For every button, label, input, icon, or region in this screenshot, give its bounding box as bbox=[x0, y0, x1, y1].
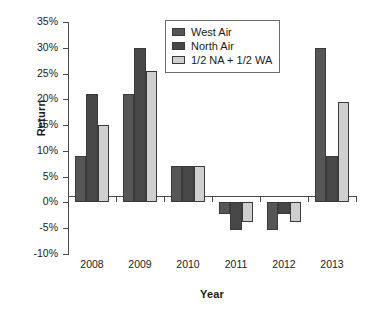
y-tick-mark bbox=[63, 202, 68, 203]
x-tick-mark bbox=[164, 197, 165, 202]
y-tick-mark bbox=[63, 151, 68, 152]
bar bbox=[290, 202, 302, 222]
y-tick-mark bbox=[63, 22, 68, 23]
x-tick-mark bbox=[116, 197, 117, 202]
x-tick-label: 2010 bbox=[164, 258, 212, 270]
legend-swatch bbox=[172, 28, 185, 36]
y-tick-label: 10% bbox=[37, 144, 58, 156]
y-tick-label: 15% bbox=[37, 118, 58, 130]
y-tick-mark bbox=[63, 48, 68, 49]
bar bbox=[194, 166, 206, 202]
legend-label: West Air bbox=[191, 25, 232, 39]
x-tick-mark bbox=[260, 197, 261, 202]
x-tick-label: 2009 bbox=[116, 258, 164, 270]
y-tick-mark bbox=[63, 254, 68, 255]
legend-item: West Air bbox=[172, 25, 272, 39]
y-tick-mark bbox=[63, 177, 68, 178]
bar bbox=[86, 94, 98, 202]
bar bbox=[230, 202, 242, 229]
bar bbox=[326, 156, 338, 202]
bar bbox=[123, 94, 135, 202]
chart-legend: West AirNorth Air1/2 NA + 1/2 WA bbox=[165, 20, 280, 73]
y-tick-label: -10% bbox=[33, 247, 58, 259]
bar bbox=[171, 166, 183, 202]
x-tick-label: 2012 bbox=[260, 258, 308, 270]
bar bbox=[134, 48, 146, 203]
legend-swatch bbox=[172, 56, 185, 64]
bar-chart: Return Year 35%30%25%20%15%10%5%0%-5%-10… bbox=[0, 0, 378, 318]
bar bbox=[146, 71, 158, 202]
x-tick-mark bbox=[356, 197, 357, 202]
x-tick-mark bbox=[68, 197, 69, 202]
x-tick-mark bbox=[308, 197, 309, 202]
bar bbox=[182, 166, 194, 202]
x-tick-label: 2013 bbox=[308, 258, 356, 270]
x-axis-title: Year bbox=[68, 288, 356, 300]
y-tick-mark bbox=[63, 74, 68, 75]
bar bbox=[219, 202, 231, 214]
y-tick-label: 35% bbox=[37, 15, 58, 27]
bar bbox=[338, 102, 350, 203]
y-tick-mark bbox=[63, 99, 68, 100]
bar bbox=[75, 156, 87, 202]
x-tick-label: 2011 bbox=[212, 258, 260, 270]
legend-item: 1/2 NA + 1/2 WA bbox=[172, 53, 272, 67]
x-tick-mark bbox=[212, 197, 213, 202]
y-axis-line bbox=[68, 22, 69, 255]
legend-label: North Air bbox=[191, 39, 234, 53]
y-tick-mark bbox=[63, 228, 68, 229]
bar bbox=[315, 48, 327, 203]
bar bbox=[267, 202, 279, 229]
legend-label: 1/2 NA + 1/2 WA bbox=[191, 53, 272, 67]
y-tick-label: 30% bbox=[37, 41, 58, 53]
y-tick-label: -5% bbox=[39, 221, 58, 233]
x-tick-label: 2008 bbox=[68, 258, 116, 270]
bar bbox=[98, 125, 110, 202]
y-tick-label: 0% bbox=[43, 195, 58, 207]
legend-item: North Air bbox=[172, 39, 272, 53]
y-tick-label: 5% bbox=[43, 170, 58, 182]
bar bbox=[278, 202, 290, 214]
y-tick-label: 20% bbox=[37, 92, 58, 104]
y-tick-label: 25% bbox=[37, 67, 58, 79]
y-tick-mark bbox=[63, 125, 68, 126]
legend-swatch bbox=[172, 42, 185, 50]
bar bbox=[242, 202, 254, 222]
